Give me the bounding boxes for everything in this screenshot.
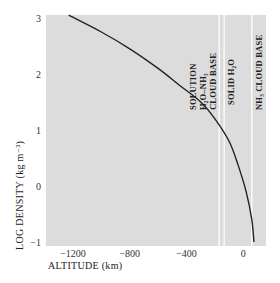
y-tick-label: 0 <box>36 181 41 192</box>
x-tick-label: −1200 <box>60 248 86 259</box>
vline-label-0-0: SOLUTION <box>188 63 198 110</box>
y-tick-label: −1 <box>30 237 41 248</box>
x-tick-label: 0 <box>241 248 246 259</box>
y-tick-label: 2 <box>36 69 41 80</box>
y-axis-label: LOG DENSITY (kg m⁻³) <box>14 141 26 250</box>
chart: 3210−1 −1200−800−4000 SOLUTIONH₂O–NH₃CLO… <box>0 0 280 283</box>
vline-label-2-0: NH₃ CLOUD BASE <box>254 35 264 110</box>
plot-area <box>46 15 266 246</box>
vline-label-0-2: CLOUD BASE <box>208 53 218 110</box>
x-tick-label: −400 <box>176 248 197 259</box>
vline-label-1-0: SOLID H₂O <box>226 59 236 105</box>
vline-label-0-1: H₂O–NH₃ <box>198 73 208 110</box>
x-tick-label: −800 <box>119 248 140 259</box>
y-tick-label: 3 <box>36 13 41 24</box>
x-axis-label: ALTITUDE (km) <box>48 260 122 272</box>
y-tick-label: 1 <box>36 125 41 136</box>
